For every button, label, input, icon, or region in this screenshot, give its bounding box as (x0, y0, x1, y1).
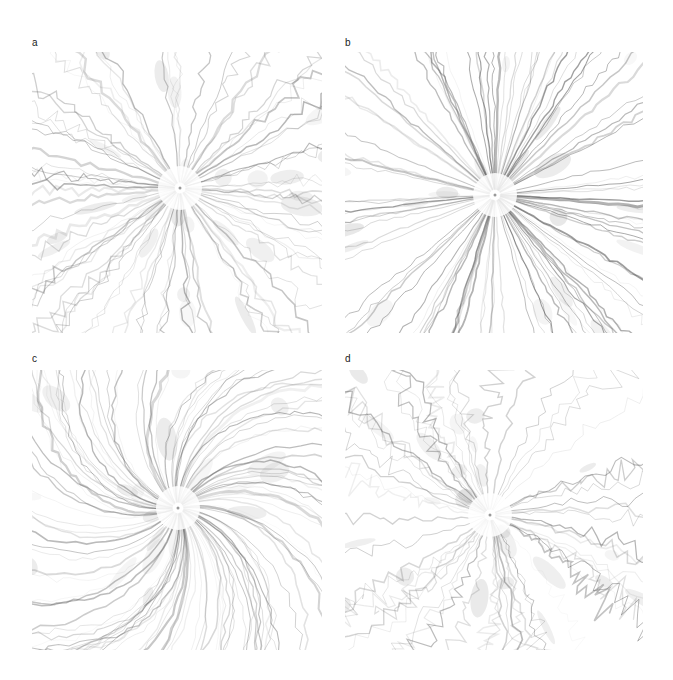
panel-label-b: b (345, 38, 351, 48)
panel-label-d: d (345, 354, 351, 364)
spiral-streamline-image (32, 370, 322, 650)
panel-b-image (345, 52, 643, 333)
fractal-streamline-image (345, 370, 643, 650)
panel-d-image (345, 370, 643, 650)
panel-c-image (32, 370, 322, 650)
panel-label-c: c (32, 354, 37, 364)
panel-a-image (32, 52, 322, 333)
radial-streamline-image (345, 52, 643, 333)
panel-label-a: a (32, 38, 38, 48)
radial-streamline-image (32, 52, 322, 333)
